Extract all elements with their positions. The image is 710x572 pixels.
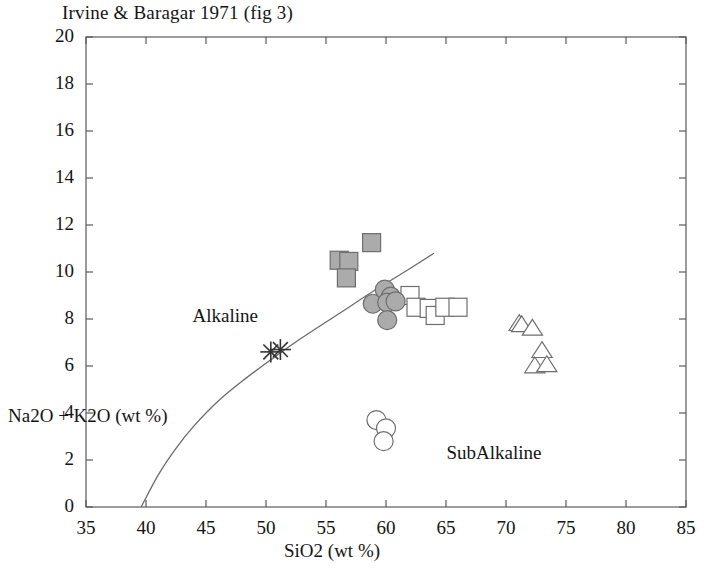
x-tick-label: 35 <box>66 517 106 539</box>
x-tick-label: 55 <box>306 517 346 539</box>
y-tick-label: 16 <box>34 119 74 141</box>
series-open-triangle <box>509 315 557 373</box>
data-point-triangle <box>532 342 552 358</box>
data-point-circle <box>374 432 393 451</box>
x-tick-label: 70 <box>486 517 526 539</box>
y-tick-label: 8 <box>34 307 74 329</box>
data-point-square <box>337 269 355 287</box>
x-axis-label: SiO2 (wt %) <box>284 540 380 562</box>
x-tick-label: 60 <box>366 517 406 539</box>
y-tick-label: 4 <box>34 401 74 423</box>
plot-canvas <box>0 0 710 572</box>
y-tick-label: 20 <box>34 25 74 47</box>
series-filled-square <box>330 234 380 287</box>
y-tick-label: 14 <box>34 166 74 188</box>
y-tick-label: 18 <box>34 72 74 94</box>
data-point-circle <box>378 311 397 330</box>
series-star <box>260 339 291 362</box>
data-point-square <box>340 252 358 270</box>
x-tick-label: 50 <box>246 517 286 539</box>
field-label-subalkaline: SubAlkaline <box>447 442 542 464</box>
x-tick-label: 45 <box>186 517 226 539</box>
data-point-square <box>363 234 381 252</box>
y-tick-label: 12 <box>34 213 74 235</box>
y-tick-label: 2 <box>34 448 74 470</box>
data-point-circle <box>386 292 405 311</box>
data-point-square <box>449 298 467 316</box>
series-filled-circle <box>363 280 405 330</box>
data-point-asterisk <box>270 339 291 360</box>
x-tick-label: 85 <box>666 517 706 539</box>
series-open-circle <box>367 411 396 451</box>
y-tick-label: 0 <box>34 495 74 517</box>
x-tick-label: 75 <box>546 517 586 539</box>
y-axis-label: Na2O + K2O (wt %) <box>8 405 168 427</box>
series-open-square <box>401 287 467 325</box>
x-tick-label: 40 <box>126 517 166 539</box>
x-tick-label: 80 <box>606 517 646 539</box>
field-label-alkaline: Alkaline <box>192 305 257 327</box>
x-tick-label: 65 <box>426 517 466 539</box>
y-tick-label: 6 <box>34 354 74 376</box>
y-tick-label: 10 <box>34 260 74 282</box>
tas-diagram-figure: Irvine & Baragar 1971 (fig 3) Na2O + K2O… <box>0 0 710 572</box>
